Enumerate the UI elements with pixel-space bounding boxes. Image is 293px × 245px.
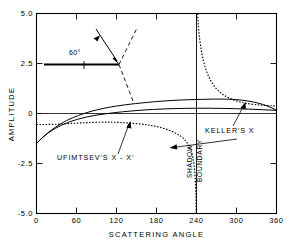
- x-tick-label-180: 180: [149, 216, 163, 225]
- shadow-boundary-leader-arrowhead: [170, 144, 178, 149]
- y-tick-label--5.0: -5.0: [18, 209, 33, 218]
- x-tick-label-120: 120: [109, 216, 123, 225]
- curve-ufimtsev-left-branch: [37, 122, 197, 213]
- ufimtsev-label: UFIMTSEV'S X - X': [57, 153, 134, 162]
- curve-ufimtsev-right-branch: [198, 14, 277, 106]
- y-tick-label-5.0: 5.0: [21, 9, 33, 18]
- chart-canvas: 5.0 2.5 0 -2.5 -5.0 AMPLITUDE: [0, 0, 293, 245]
- x-tick-label-60: 60: [72, 216, 82, 225]
- shadow-boundary-label-shadow: SHADOW: [186, 144, 193, 178]
- y-axis-tick-labels: 5.0 2.5 0 -2.5 -5.0: [18, 9, 33, 218]
- inset-reflection-boundary: [119, 28, 137, 65]
- ufimtsev-leader-arrowhead: [126, 121, 131, 129]
- x-axis-title: SCATTERING ANGLE: [109, 230, 205, 239]
- x-tick-label-360: 360: [269, 216, 283, 225]
- y-tick-label-2.5: 2.5: [21, 59, 33, 68]
- inset-half-plane-diagram: 60°: [44, 28, 137, 101]
- kellers-label: KELLER'S X: [205, 126, 255, 135]
- shadow-boundary-leader-line: [173, 139, 237, 148]
- ufimtsev-leader-line: [118, 124, 129, 154]
- inset-shadow-boundary: [119, 65, 133, 102]
- y-tick-label--2.5: -2.5: [18, 159, 33, 168]
- inset-ray-direction-arrowhead: [94, 36, 101, 42]
- inset-angle-label: 60°: [69, 49, 81, 56]
- scattering-amplitude-figure: 5.0 2.5 0 -2.5 -5.0 AMPLITUDE: [0, 0, 293, 245]
- annotation-kellers: KELLER'S X: [205, 102, 255, 135]
- annotation-shadow-boundary: SHADOW BOUNDARY: [170, 139, 238, 182]
- shadow-boundary-label-boundary: BOUNDARY: [196, 139, 203, 182]
- inset-incident-arrowhead: [113, 57, 120, 65]
- y-axis-title: AMPLITUDE: [7, 87, 16, 142]
- x-tick-label-0: 0: [34, 216, 39, 225]
- y-tick-label-0: 0: [28, 109, 33, 118]
- inset-incident-ray: [96, 29, 117, 61]
- x-tick-label-240: 240: [189, 216, 203, 225]
- x-axis-tick-labels: 0 60 120 180 240 300 360: [34, 216, 284, 225]
- x-tick-label-300: 300: [229, 216, 243, 225]
- annotation-ufimtsev: UFIMTSEV'S X - X': [57, 121, 134, 162]
